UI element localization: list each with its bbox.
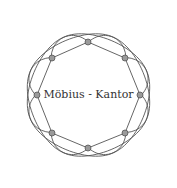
- outer-loop-edge: [29, 95, 126, 156]
- outer-loop-edge: [27, 35, 88, 132]
- graph-node: [85, 145, 91, 151]
- graph-node: [49, 130, 55, 136]
- outer-loop-edge: [89, 35, 150, 132]
- graph-node: [122, 55, 128, 61]
- graph-node: [85, 39, 91, 45]
- graph-node: [122, 130, 128, 136]
- graph-node: [49, 55, 55, 61]
- outer-loop-edge: [51, 95, 148, 156]
- diagram-title: Möbius - Kantor: [0, 88, 177, 102]
- outer-loop-edge: [27, 58, 88, 155]
- outer-loop-edge: [29, 34, 126, 95]
- outer-loop-edge: [89, 58, 150, 155]
- outer-loop-edge: [51, 34, 148, 95]
